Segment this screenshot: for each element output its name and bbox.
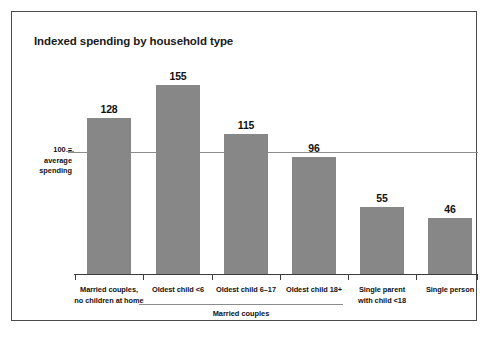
bar-value-label: 96 [284,142,344,154]
x-axis-baseline [74,274,478,275]
axis-tick [143,274,144,280]
category-label-line: Single person [405,285,493,296]
reference-line-label: 100 = average spending [30,145,72,177]
reference-label-line-3: spending [30,166,72,177]
chart-frame: Indexed spending by household type 100 =… [11,11,477,321]
axis-tick [348,274,349,280]
bar [224,134,268,274]
bar-value-label: 55 [352,192,412,204]
reference-label-line-2: average [30,156,72,167]
chart-figure: Indexed spending by household type 100 =… [0,0,493,340]
axis-tick [416,274,417,280]
bar-value-label: 155 [148,70,208,82]
plot-area: 128155115965546 [74,57,478,275]
chart-title: Indexed spending by household type [34,35,233,47]
bar-value-label: 115 [216,119,276,131]
group-bracket-rule [139,304,343,305]
group-label-married-couples: Married couples [139,309,343,318]
bar [360,207,404,274]
axis-tick [212,274,213,280]
category-label: Single person [405,285,493,296]
bar [428,218,472,274]
bar [156,85,200,274]
bar [292,157,336,274]
axis-tick [75,274,76,280]
bar [87,118,131,274]
bar-value-label: 128 [79,103,139,115]
axis-tick [477,274,478,280]
axis-tick [280,274,281,280]
category-label-line: with child <18 [337,296,427,307]
bar-value-label: 46 [420,203,480,215]
